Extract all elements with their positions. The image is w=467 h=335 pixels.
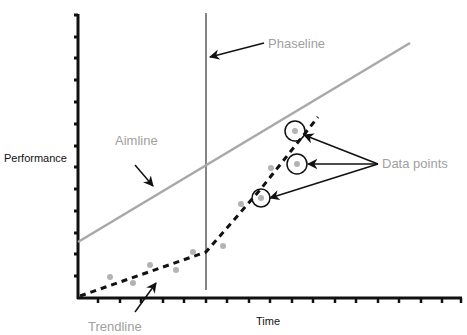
data-point (238, 201, 244, 207)
data-point (258, 195, 264, 201)
data-point (294, 161, 300, 167)
data-point (220, 243, 226, 249)
data-point (107, 274, 113, 280)
data-points-arrow-1 (304, 135, 378, 164)
data-points-arrow-3 (270, 164, 378, 198)
x-axis-label: Time (256, 315, 280, 327)
data-point (190, 249, 196, 255)
phaseline-label: Phaseline (268, 36, 325, 51)
data-point (173, 267, 179, 273)
trendline-label: Trendline (88, 319, 142, 334)
chart-canvas: Performance Time Phaseline Aimline Trend… (0, 0, 467, 335)
y-axis (74, 14, 78, 299)
aimline-label: Aimline (115, 133, 158, 148)
data-points-label: Data points (382, 156, 448, 171)
data-point (268, 165, 274, 171)
data-point (130, 280, 136, 286)
data-point (147, 262, 153, 268)
phaseline-arrow (210, 43, 264, 57)
data-point (292, 128, 298, 134)
aimline-arrow (135, 165, 153, 186)
y-axis-label: Performance (4, 152, 67, 164)
x-axis (77, 298, 462, 303)
